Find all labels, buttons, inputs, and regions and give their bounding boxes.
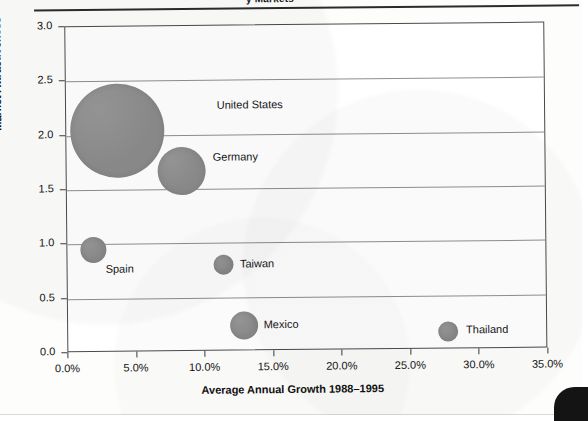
x-axis-tick (67, 352, 68, 358)
x-axis-tick (410, 349, 411, 355)
data-point-label: Thailand (466, 322, 508, 334)
y-axis-tick-label: 2.0 (19, 128, 53, 140)
bubble-chart-figure: y Markets Market Attractiveness Average … (0, 0, 584, 418)
data-bubble[interactable] (214, 255, 234, 275)
y-axis-title: Market Attractiveness (0, 17, 3, 131)
x-axis-title: Average Annual Growth 1988–1995 (2, 380, 584, 398)
x-axis-tick (273, 350, 274, 356)
y-axis-tick-label: 0.5 (21, 291, 55, 303)
header-rule (34, 4, 579, 11)
gridline-y (67, 186, 545, 192)
x-axis-tick (136, 351, 137, 357)
gridline-y (67, 240, 545, 246)
data-point-label: Spain (106, 262, 134, 274)
y-axis-tick-label: 0.0 (21, 345, 55, 357)
gridline-y (68, 294, 546, 300)
y-axis-tick-label: 3.0 (18, 19, 52, 31)
data-point-label: Germany (213, 150, 258, 162)
gridline-y (66, 77, 544, 83)
x-axis-tick-label: 25.0% (385, 359, 435, 371)
data-point-label: United States (217, 98, 283, 111)
y-axis-tick (60, 189, 66, 190)
plot-area (64, 22, 547, 353)
x-axis-tick (342, 350, 343, 356)
y-axis-tick (59, 80, 65, 81)
chart-title-text: y Markets (246, 0, 476, 4)
x-axis-tick (205, 351, 206, 357)
page-curl-artifact (554, 387, 588, 421)
page-bottom-edge (0, 414, 582, 415)
data-point-label: Mexico (264, 318, 299, 330)
x-axis-tick (547, 348, 548, 354)
x-axis-tick-label: 15.0% (248, 360, 298, 372)
x-axis-tick-label: 30.0% (454, 358, 504, 370)
x-axis-tick-label: 35.0% (522, 357, 572, 369)
y-axis-tick (61, 298, 67, 299)
y-axis-tick (59, 135, 65, 136)
y-axis-tick (58, 26, 64, 27)
data-bubble[interactable] (230, 311, 258, 339)
data-bubble[interactable] (158, 146, 206, 194)
data-bubble[interactable] (70, 84, 165, 179)
data-bubble[interactable] (80, 237, 106, 263)
y-axis-tick-label: 2.5 (19, 74, 53, 86)
x-axis-tick-label: 20.0% (317, 359, 367, 371)
x-axis-tick-label: 5.0% (111, 361, 161, 373)
y-axis-tick (60, 243, 66, 244)
x-axis-tick (479, 348, 480, 354)
y-axis-tick-label: 1.5 (20, 182, 54, 194)
y-axis-tick-label: 1.0 (20, 237, 54, 249)
data-point-label: Taiwan (240, 257, 274, 269)
x-axis-tick-label: 10.0% (180, 361, 230, 373)
data-bubble[interactable] (438, 321, 458, 341)
x-axis-tick-label: 0.0% (42, 362, 92, 374)
